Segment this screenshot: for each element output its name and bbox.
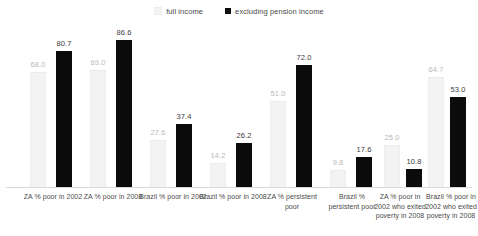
legend-label-excluding-pension-income: excluding pension income [235,7,324,16]
bar-group-8: 64.7 53.0 [428,20,478,188]
bar-rect-light-1 [30,72,46,187]
category-axis-labels: ZA % poor in 2002 ZA % poor in 2008 Braz… [0,192,478,236]
bar-value-dark-7: 10.8 [407,157,422,166]
bar-rect-dark-2 [116,40,132,187]
bar-rect-dark-5 [296,65,312,187]
bar-value-light-3: 27.6 [151,128,166,137]
legend-label-full-income: full income [166,7,203,16]
bar-rect-light-3 [150,140,166,187]
bar-rect-light-6 [330,170,346,187]
bar-rect-dark-7 [406,169,422,187]
bar-value-light-2: 69.0 [91,58,106,67]
bar-chart: full income excluding pension income 68.… [0,0,478,236]
bar-value-dark-1: 80.7 [57,39,72,48]
bar-rect-dark-8 [450,97,466,187]
light-swatch-icon [154,7,162,15]
legend-entry-excluding-pension-income: excluding pension income [225,7,324,16]
bar-value-light-4: 14.2 [211,151,226,160]
dark-swatch-icon [225,8,231,14]
category-label-7: ZA % poor in 2002 who exited poverty in … [372,192,428,221]
bar-value-light-7: 25.0 [385,133,400,142]
category-label-5: ZA % persistent poor [263,192,321,211]
plot-area: 68.0 80.7 69.0 86.6 27.6 [0,20,478,188]
bar-value-dark-5: 72.0 [297,53,312,62]
bar-value-light-1: 68.0 [31,60,46,69]
bar-value-light-8: 64.7 [429,65,444,74]
category-label-4: Brazil % poor in 2008 [197,192,269,202]
bar-rect-light-2 [90,70,106,187]
bar-rect-light-7 [384,145,400,187]
bar-value-dark-8: 53.0 [451,85,466,94]
bar-rect-dark-1 [56,51,72,187]
bar-value-dark-2: 86.6 [117,28,132,37]
bar-value-dark-3: 37.4 [177,112,192,121]
bar-rect-light-4 [210,163,226,187]
chart-legend: full income excluding pension income [0,3,478,19]
bar-value-light-6: 9.8 [333,158,344,167]
bar-rect-dark-6 [356,157,372,187]
category-label-8: Brazil % poor in 2002 who exited poverty… [424,192,478,221]
legend-entry-full-income: full income [154,7,203,16]
bar-rect-light-5 [270,101,286,187]
bar-rect-light-8 [428,77,444,187]
bar-rect-dark-3 [176,124,192,187]
bar-rect-dark-4 [236,143,252,187]
bar-value-light-5: 51.0 [271,89,286,98]
bar-value-dark-6: 17.6 [357,145,372,154]
bar-value-dark-4: 26.2 [237,131,252,140]
